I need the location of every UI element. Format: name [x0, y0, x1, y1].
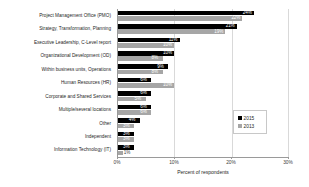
bar-group: 24%22%	[117, 9, 289, 22]
bar-value-label: 6%	[140, 110, 146, 115]
bar-value-label: 9%	[157, 65, 163, 70]
bar-value-label: 19%	[214, 30, 223, 35]
legend-label-2015: 2015	[244, 116, 255, 121]
legend-swatch-2013	[238, 124, 242, 128]
legend-swatch-2015	[238, 116, 242, 120]
bar-group: 10%8%	[117, 49, 289, 62]
bar-value-label: 24%	[243, 11, 252, 16]
category-label: Project Management Office (PMO)	[39, 13, 111, 18]
x-axis-title: Percent of respondents	[117, 169, 289, 175]
y-axis-line	[117, 9, 118, 157]
horizontal-bar-chart: 24%22%21%19%11%10%10%8%9%8%6%10%6%5%6%6%…	[0, 0, 309, 187]
category-labels: Project Management Office (PMO)Strategy,…	[0, 9, 114, 157]
x-axis-line	[117, 157, 289, 158]
x-tick-label: 20%	[226, 160, 236, 165]
bar-2013	[117, 29, 225, 34]
category-label: Multiple/several locations	[59, 107, 111, 112]
bar-group: 6%10%	[117, 76, 289, 89]
plot-area: 24%22%21%19%11%10%10%8%9%8%6%10%6%5%6%6%…	[117, 9, 289, 157]
legend-item-2013: 2013	[238, 122, 263, 130]
bar-value-label: 22%	[231, 16, 240, 21]
bar-rows: 24%22%21%19%11%10%10%8%9%8%6%10%6%5%6%6%…	[117, 9, 289, 157]
x-tick-mark	[117, 157, 118, 159]
bar-group: 3%1%	[117, 144, 289, 157]
x-tick-mark	[288, 157, 289, 159]
category-label: Within business units, Operations	[41, 67, 111, 72]
bar-value-label: 10%	[163, 51, 172, 56]
bar-value-label: 21%	[226, 24, 235, 29]
bar-group: 6%5%	[117, 90, 289, 103]
bar-value-label: 1%	[124, 151, 130, 156]
bar-2015	[117, 24, 237, 29]
bar-group: 9%8%	[117, 63, 289, 76]
bar-2013	[117, 97, 146, 102]
category-label: Independent	[85, 134, 111, 139]
bar-value-label: 3%	[123, 137, 129, 142]
category-label: Corporate and Shared Services	[45, 94, 111, 99]
bar-value-label: 5%	[135, 97, 141, 102]
chart-legend: 2015 2013	[233, 110, 267, 134]
category-label: Executive Leadership, C-Level report	[34, 40, 111, 45]
bar-value-label: 6%	[140, 78, 146, 83]
x-tick-label: 0%	[114, 160, 121, 165]
legend-item-2015: 2015	[238, 114, 263, 122]
bar-value-label: 10%	[163, 43, 172, 48]
category-label: Strategy, Transformation, Planning	[39, 26, 111, 31]
bar-2013	[117, 16, 242, 21]
category-label: Other	[99, 121, 111, 126]
x-tick-label: 10%	[169, 160, 179, 165]
bar-value-label: 6%	[140, 91, 146, 96]
x-tick-mark	[231, 157, 232, 159]
category-label: Organizational Development (OD)	[40, 53, 111, 58]
category-label: Information Technology (IT)	[54, 147, 111, 152]
legend-label-2013: 2013	[244, 124, 255, 129]
bar-group: 21%19%	[117, 22, 289, 35]
x-tick-mark	[174, 157, 175, 159]
bar-value-label: 3%	[123, 124, 129, 129]
bar-group: 11%10%	[117, 36, 289, 49]
category-label: Human Resources (HR)	[61, 80, 111, 85]
x-tick-label: 30%	[283, 160, 293, 165]
bar-value-label: 8%	[152, 70, 158, 75]
bar-value-label: 10%	[163, 83, 172, 88]
bar-value-label: 8%	[152, 56, 158, 61]
